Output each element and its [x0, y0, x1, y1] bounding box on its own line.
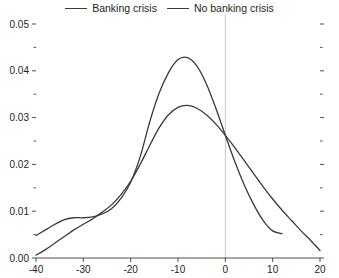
series-line-banking-crisis [36, 57, 282, 235]
svg-text:-20: -20 [123, 264, 138, 275]
svg-text:0: 0 [223, 264, 229, 275]
svg-text:-40: -40 [29, 264, 44, 275]
svg-text:10: 10 [267, 264, 279, 275]
svg-text:20: 20 [314, 264, 326, 275]
svg-text:0.02: 0.02 [10, 159, 30, 170]
svg-text:0.05: 0.05 [10, 19, 30, 30]
svg-text:-30: -30 [76, 264, 91, 275]
plot-area: 0.000.010.020.030.040.05 -40-30-20-10010… [0, 0, 339, 278]
svg-text:0.01: 0.01 [10, 206, 30, 217]
svg-text:0.00: 0.00 [10, 253, 30, 264]
svg-text:-10: -10 [171, 264, 186, 275]
svg-text:0.03: 0.03 [10, 112, 30, 123]
svg-text:0.04: 0.04 [10, 65, 30, 76]
y-axis-ticks: 0.000.010.020.030.040.05 [10, 19, 324, 264]
density-chart-figure: Banking crisis No banking crisis 0.000.0… [0, 0, 339, 278]
data-series [36, 57, 320, 255]
x-axis-ticks: -40-30-20-1001020 [29, 258, 326, 275]
